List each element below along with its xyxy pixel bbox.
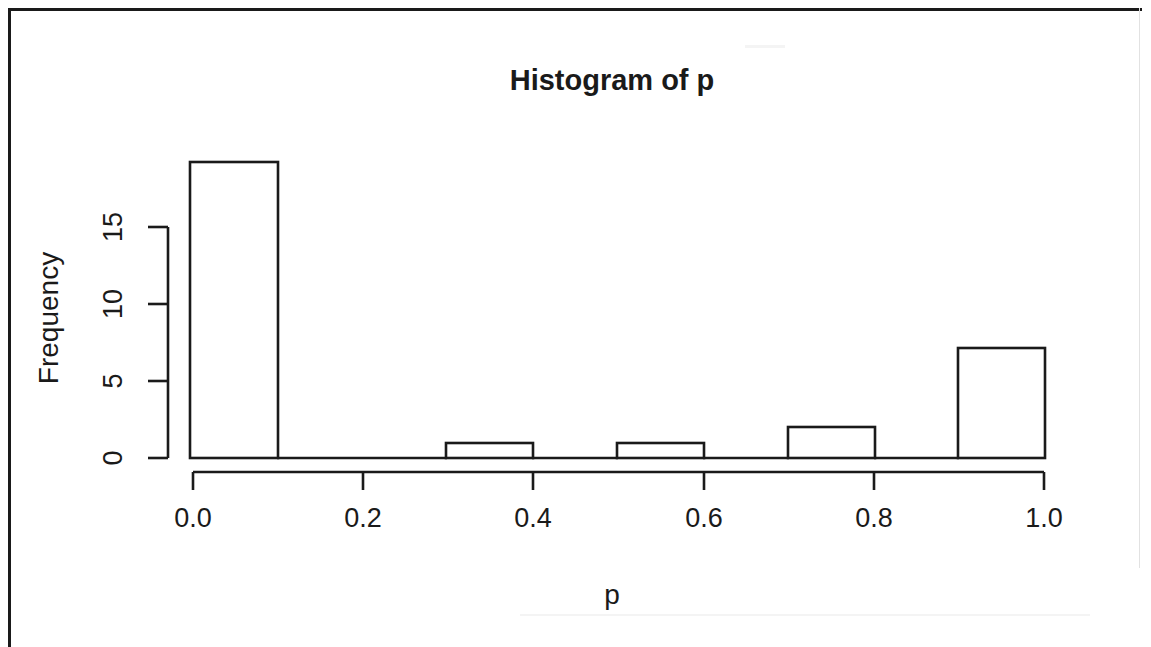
x-axis-tick-label-0.4: 0.4 [514,503,552,533]
y-axis-tick-label-15: 15 [98,212,128,242]
histogram-bar [446,443,533,458]
y-axis-tick-label-5: 5 [98,373,128,388]
x-axis-tick-label-0.8: 0.8 [855,503,893,533]
histogram-bar [617,443,704,458]
x-axis-tick-label-1.0: 1.0 [1025,503,1063,533]
y-axis-tick-label-0: 0 [98,450,128,465]
histogram-plot: Histogram of p 15 10 5 0 Frequency [0,0,1151,647]
y-axis-title: Frequency [33,252,64,384]
figure-page: Histogram of p 15 10 5 0 Frequency [0,0,1151,647]
x-axis-title: p [604,579,620,610]
y-axis-tick-label-10: 10 [98,289,128,319]
histogram-bar [788,427,875,458]
x-axis-tick-label-0.6: 0.6 [685,503,723,533]
histogram-bar [958,348,1045,458]
x-axis-tick-label-0.0: 0.0 [174,503,212,533]
chart-title: Histogram of p [510,64,715,96]
x-axis-tick-label-0.2: 0.2 [344,503,382,533]
histogram-bar [190,162,278,458]
